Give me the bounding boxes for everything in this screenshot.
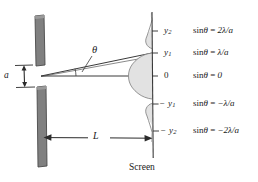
equation-y2-neg: sinθ = −2λ/a bbox=[193, 126, 239, 135]
angle-theta-label: θ bbox=[92, 45, 97, 56]
equation-center: sinθ = 0 bbox=[193, 71, 222, 80]
minus-sign-y1-neg: − bbox=[159, 98, 165, 108]
position-label-y1-neg: −y1 bbox=[159, 99, 176, 109]
minus-sign-y2-neg: − bbox=[160, 125, 166, 135]
upper-barrier bbox=[35, 15, 45, 66]
sin-text-y2-pos: sin bbox=[193, 25, 204, 35]
value-center: 0 bbox=[218, 70, 223, 80]
equals-y2-neg: = bbox=[208, 125, 218, 135]
value-y1-pos: λ/a bbox=[218, 47, 229, 57]
value-y1-neg: −λ/a bbox=[218, 98, 235, 108]
sin-text-y1-pos: sin bbox=[193, 47, 204, 57]
value-y2-pos: 2λ/a bbox=[218, 25, 233, 35]
sin-text-y1-neg: sin bbox=[193, 98, 204, 108]
sin-text-center: sin bbox=[193, 70, 204, 80]
equals-y1-neg: = bbox=[208, 98, 218, 108]
y2-neg-subscript: 2 bbox=[173, 128, 176, 135]
equation-y1-neg: sinθ = −λ/a bbox=[193, 99, 235, 108]
equation-y2-pos: sinθ = 2λ/a bbox=[193, 26, 233, 35]
y1-pos-subscript: 1 bbox=[168, 50, 171, 57]
slit-width-label: a bbox=[4, 71, 9, 81]
screen-line bbox=[152, 12, 153, 158]
diffraction-intensity-curve bbox=[129, 13, 153, 142]
screen-caption: Screen bbox=[129, 163, 155, 173]
equals-y1-pos: = bbox=[208, 47, 218, 57]
y1-neg-subscript: 1 bbox=[172, 101, 175, 108]
distance-L-label: L bbox=[93, 131, 99, 141]
equals-center: = bbox=[208, 70, 218, 80]
single-slit-diffraction-figure: a θ L Screen y2 sinθ = 2λ/a y1 sinθ = λ/… bbox=[0, 0, 258, 182]
position-label-y2-neg: −y2 bbox=[160, 126, 177, 136]
value-y2-neg: −2λ/a bbox=[218, 125, 239, 135]
position-label-y1-pos: y1 bbox=[164, 48, 171, 58]
position-label-y2-pos: y2 bbox=[164, 26, 171, 36]
sin-text-y2-neg: sin bbox=[193, 125, 204, 135]
position-label-center: 0 bbox=[164, 71, 169, 80]
lower-barrier bbox=[37, 86, 47, 167]
slit-width-dimension bbox=[15, 65, 35, 88]
equals-y2-pos: = bbox=[208, 25, 218, 35]
y2-pos-subscript: 2 bbox=[168, 28, 171, 35]
equation-y1-pos: sinθ = λ/a bbox=[193, 48, 228, 57]
